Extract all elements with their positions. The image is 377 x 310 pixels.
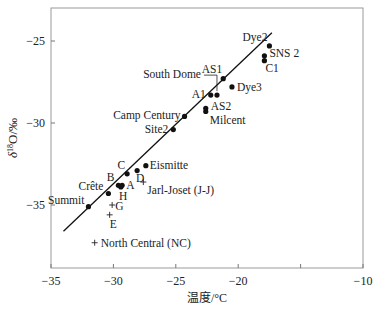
- point-label: North Central (NC): [101, 237, 191, 250]
- data-point: [229, 84, 234, 89]
- point-label: SNS 2: [269, 47, 299, 59]
- x-tick-label: −35: [42, 274, 61, 288]
- data-point: [143, 163, 148, 168]
- point-label: C: [117, 159, 125, 171]
- point-label: Milcent: [210, 114, 247, 126]
- point-label: A: [126, 179, 135, 191]
- point-label: Dye2: [242, 31, 267, 44]
- x-tick-label: −25: [166, 274, 185, 288]
- x-tick-label: −10: [354, 274, 373, 288]
- y-axis-label: δ18O/‰: [5, 118, 20, 158]
- point-label: E: [110, 218, 117, 230]
- x-tick-label: −20: [229, 274, 248, 288]
- data-point: [125, 171, 130, 176]
- data-point: [118, 184, 123, 189]
- data-point: [86, 204, 91, 209]
- scatter-chart: −35−30−25−20−10−25−30−35 SummitCrêteBAHC…: [0, 0, 377, 310]
- x-axis-label: 温度/°C: [187, 290, 227, 305]
- point-label: AS1: [202, 63, 223, 75]
- data-point: [214, 93, 219, 98]
- point-label: B: [107, 171, 115, 183]
- data-point: [171, 127, 176, 132]
- data-point: [106, 191, 111, 196]
- point-label: Camp Century: [113, 109, 181, 122]
- x-tick-label: −30: [104, 274, 123, 288]
- data-point: [221, 76, 226, 81]
- point-label: AS2: [211, 100, 232, 112]
- data-point: [182, 114, 187, 119]
- point-labels: SummitCrêteBAHCDEismitteSite2Camp Centur…: [48, 31, 299, 250]
- point-label: South Dome: [143, 68, 201, 80]
- plot-frame: [51, 8, 363, 268]
- point-label: A1: [192, 88, 206, 100]
- y-tick-label: −35: [26, 198, 45, 212]
- point-label: Summit: [48, 194, 85, 206]
- point-label: Eismitte: [150, 159, 188, 171]
- point-label: Crête: [79, 180, 104, 192]
- data-point: [208, 93, 213, 98]
- point-label: Dye3: [237, 81, 262, 94]
- point-label: D: [136, 172, 144, 184]
- point-label: G: [115, 200, 123, 212]
- point-label: Jarl-Joset (J-J): [147, 184, 214, 197]
- data-point: [203, 106, 208, 111]
- y-tick-label: −30: [26, 116, 45, 130]
- y-tick-label: −25: [26, 34, 45, 48]
- point-label: C1: [265, 62, 279, 74]
- point-label: Site2: [145, 123, 169, 135]
- data-point-plus: [92, 240, 98, 246]
- data-point: [262, 53, 267, 58]
